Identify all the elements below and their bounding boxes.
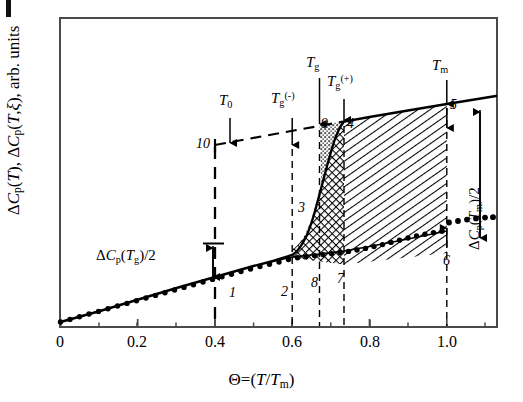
marker-label-Tg: Tg [306, 54, 319, 72]
delta-cp-tg-half-label: ΔCp(Tg)/2 [96, 247, 156, 265]
point-label-3: 3 [298, 200, 305, 216]
point-label-4: 4 [347, 116, 354, 132]
point-label-8: 8 [311, 275, 318, 291]
marker-label-Tg-minus: Tg(-) [271, 90, 295, 108]
point-label-7: 7 [337, 271, 344, 287]
figure-root: ΔCp(T), ΔCp(T,ξ), arb. units Θ=(T/Tm) 0 … [0, 0, 523, 402]
marker-label-Tg-plus: Tg(+) [327, 73, 353, 91]
diagonal-hatched-melting-region [344, 104, 447, 265]
delta-cp-tg-half-arrow [203, 244, 224, 278]
marker-label-T0: T0 [219, 92, 232, 110]
delta-cp-tm-half-label: ΔCp(Tm)/2 [466, 187, 484, 250]
point-label-2: 2 [281, 284, 288, 300]
cross-hatched-transition-region [292, 122, 344, 265]
marker-label-Tm: Tm [432, 57, 448, 75]
point-label-5: 5 [450, 97, 457, 113]
point-label-6: 6 [443, 253, 450, 269]
point-label-9: 9 [321, 116, 328, 132]
point-label-1: 1 [229, 285, 236, 301]
point-label-10: 10 [196, 136, 210, 152]
